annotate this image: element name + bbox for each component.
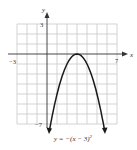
y-max-tick-label: 3 <box>40 21 43 28</box>
equation-text: y = −(x − 3) <box>53 135 90 143</box>
y-axis-arrow-icon <box>45 12 50 18</box>
grid <box>17 24 117 124</box>
y-axis-label: y <box>41 6 46 14</box>
x-max-tick-label: 7 <box>115 57 119 64</box>
x-min-tick-label: −3 <box>9 58 16 65</box>
y-min-tick-label: −7 <box>35 121 43 128</box>
equation-exponent: 2 <box>90 134 93 139</box>
curve-right-arrow-icon <box>102 128 108 135</box>
parabola-chart: x y −3 7 3 −7 y = −(x − 3)2 <box>0 0 137 150</box>
x-axis-label: x <box>129 51 134 59</box>
curve-left-arrow-icon <box>47 128 53 135</box>
equation-label: y = −(x − 3)2 <box>53 134 93 143</box>
x-axis-arrow-icon <box>122 52 128 57</box>
